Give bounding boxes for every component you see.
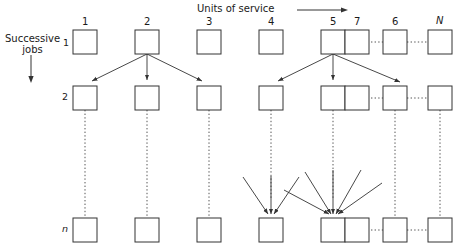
square-node bbox=[135, 30, 159, 54]
square-node bbox=[321, 218, 345, 242]
square-node bbox=[383, 86, 407, 110]
square-node bbox=[428, 218, 452, 242]
y-axis-title-line1: Successive bbox=[5, 33, 60, 45]
square-node bbox=[428, 30, 452, 54]
x-axis-arrow-icon bbox=[297, 7, 348, 12]
fanout-arrows-col5 bbox=[278, 54, 400, 82]
node-row-2 bbox=[73, 86, 452, 110]
diagram-graphics bbox=[0, 0, 469, 247]
column-label-N: N bbox=[436, 15, 443, 27]
column-label-5: 5 bbox=[330, 16, 336, 28]
square-node bbox=[197, 30, 221, 54]
fanout-arrows-col2 bbox=[92, 54, 202, 81]
column-label-2: 2 bbox=[144, 16, 150, 28]
square-node bbox=[73, 30, 97, 54]
square-node bbox=[383, 30, 407, 54]
dotted-vertical-connectors bbox=[85, 110, 440, 218]
square-node bbox=[259, 86, 283, 110]
square-node bbox=[259, 30, 283, 54]
column-label-7: 7 bbox=[354, 16, 360, 28]
square-node bbox=[197, 218, 221, 242]
row-label-2: 2 bbox=[62, 92, 68, 103]
y-axis-arrow-icon bbox=[28, 55, 33, 83]
square-node bbox=[345, 218, 369, 242]
square-node bbox=[428, 86, 452, 110]
convergence-arrows-col5 bbox=[284, 170, 382, 214]
x-axis-title: Units of service bbox=[197, 3, 274, 15]
column-label-1: 1 bbox=[82, 16, 88, 28]
node-row-1 bbox=[73, 30, 452, 54]
square-node bbox=[321, 30, 345, 54]
diagram-canvas: Units of service Successive jobs 1 2 3 4… bbox=[0, 0, 469, 247]
square-node bbox=[197, 86, 221, 110]
square-node bbox=[73, 86, 97, 110]
square-node bbox=[383, 218, 407, 242]
row-label-1: 1 bbox=[63, 38, 69, 49]
row-label-n: n bbox=[62, 224, 68, 235]
y-axis-title-line2: jobs bbox=[5, 44, 60, 56]
dotted-horizontal-connectors bbox=[371, 42, 428, 230]
square-node bbox=[345, 86, 369, 110]
convergence-arrows-col4 bbox=[243, 176, 299, 214]
column-label-4: 4 bbox=[268, 16, 274, 28]
square-node bbox=[135, 218, 159, 242]
square-node bbox=[135, 86, 159, 110]
node-row-n bbox=[73, 218, 452, 242]
column-label-6: 6 bbox=[392, 16, 398, 28]
column-label-3: 3 bbox=[206, 16, 212, 28]
square-node bbox=[321, 86, 345, 110]
square-node bbox=[259, 218, 283, 242]
square-node bbox=[73, 218, 97, 242]
square-node bbox=[345, 30, 369, 54]
